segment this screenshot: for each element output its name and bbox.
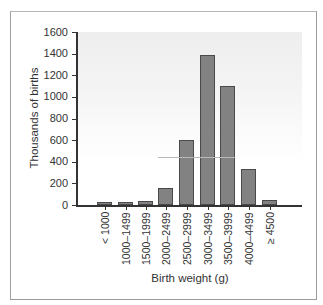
y-axis-title: Thousands of births (28, 67, 40, 168)
x-tick-mark (208, 206, 209, 210)
y-axis-line (76, 32, 78, 206)
x-tick-mark (126, 206, 127, 210)
x-axis-title: Birth weight (g) (151, 272, 228, 284)
x-tick-mark (270, 206, 271, 210)
y-tick-label: 200 (28, 178, 68, 189)
bar (220, 86, 235, 205)
x-tick-mark (249, 206, 250, 210)
x-tick-label: 4000–4499 (243, 212, 255, 265)
x-tick-mark (166, 206, 167, 210)
x-axis-line (76, 205, 302, 207)
x-tick-label: 3500–3999 (222, 212, 234, 265)
x-tick-mark (187, 206, 188, 210)
x-tick-label: ≥ 4500 (264, 212, 276, 244)
x-tick-mark (228, 206, 229, 210)
x-tick-label: 2000–2499 (160, 212, 172, 265)
bar (118, 202, 133, 205)
bar (158, 188, 173, 205)
x-tick-mark (105, 206, 106, 210)
x-tick-label: 1500–1999 (140, 212, 152, 265)
bar (179, 140, 194, 205)
y-tick-label: 1400 (28, 48, 68, 59)
highlight-line (158, 157, 235, 158)
bar (241, 169, 256, 205)
bar (262, 200, 277, 205)
y-tick-label: 0 (28, 200, 68, 211)
bar (200, 55, 215, 205)
x-tick-label: 1000–1499 (120, 212, 132, 265)
bar (97, 202, 112, 205)
x-tick-mark (146, 206, 147, 210)
x-tick-label: 3000–3499 (202, 212, 214, 265)
y-tick-label: 1600 (28, 27, 68, 38)
bar (138, 201, 153, 205)
x-tick-label: < 1000 (99, 212, 111, 244)
x-tick-label: 2500–2999 (181, 212, 193, 265)
